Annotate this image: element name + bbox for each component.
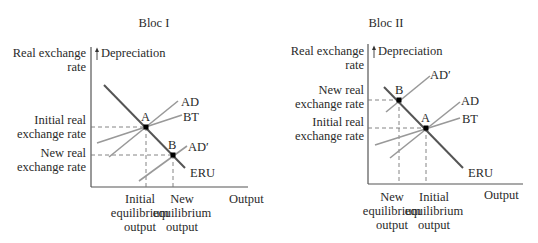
bloc-2-point-a	[424, 126, 429, 131]
bloc-1-panel: Bloc I Depreciation Real exchange rate I…	[13, 16, 264, 234]
bloc-2-ad-prime-label: AD′	[430, 68, 451, 82]
bloc-1-depreciation-label: Depreciation	[101, 46, 166, 60]
bloc-2-left-output-line1: New	[380, 190, 404, 204]
up-arrow-icon	[95, 48, 99, 61]
bloc-2-title: Bloc II	[368, 16, 403, 30]
bloc-1-right-output-line1: New	[170, 192, 194, 206]
bloc-1-ad-label: AD	[181, 95, 199, 109]
bloc-2-upper-rate-line1: New real	[319, 83, 365, 97]
bloc-2-lower-rate-line1: Initial real	[312, 115, 364, 129]
bloc-2-eru-label: ERU	[468, 166, 493, 180]
bloc-1-eru-label: ERU	[190, 166, 215, 180]
bloc-2-panel: Bloc II Depreciation Real exchange rate …	[291, 16, 523, 232]
bloc-1-title: Bloc I	[139, 16, 170, 30]
bloc-1-ad-prime-label: AD′	[188, 140, 209, 154]
bloc-2-left-output-line3: output	[376, 218, 408, 232]
bloc-2-lower-rate-line2: exchange rate	[295, 129, 365, 143]
bloc-1-right-output-line3: output	[166, 220, 198, 234]
bloc-1-x-label: Output	[229, 192, 264, 206]
bloc-2-bt-label: BT	[462, 112, 478, 126]
bloc-2-x-label: Output	[484, 188, 519, 202]
diagram-canvas: Bloc I Depreciation Real exchange rate I…	[0, 0, 538, 243]
bloc-1-left-output-line1: Initial	[125, 192, 155, 206]
bloc-2-depreciation-label: Depreciation	[378, 44, 443, 58]
bloc-2-ad-prime-curve	[386, 76, 430, 112]
bloc-1-point-a	[144, 125, 149, 130]
bloc-1-y-label-line2: rate	[67, 60, 86, 74]
bloc-1-point-b-label: B	[168, 138, 176, 152]
bloc-1-lower-rate-line1: New real	[41, 146, 87, 160]
bloc-2-right-output-line1: Initial	[419, 190, 449, 204]
bloc-2-y-label-line2: rate	[345, 58, 364, 72]
bloc-1-point-a-label: A	[141, 110, 150, 124]
bloc-2-ad-label: AD	[461, 94, 479, 108]
bloc-2-right-output-line2: equilibrium	[405, 204, 464, 218]
bloc-2-right-output-line3: output	[418, 218, 450, 232]
up-arrow-icon	[372, 46, 376, 59]
bloc-2-point-b-label: B	[395, 83, 403, 97]
bloc-2-point-b	[397, 98, 402, 103]
bloc-1-y-label-line1: Real exchange	[13, 46, 87, 60]
bloc-1-lower-rate-line2: exchange rate	[17, 160, 87, 174]
bloc-1-upper-rate-line1: Initial real	[34, 113, 86, 127]
bloc-1-right-output-line2: equilibrium	[153, 206, 212, 220]
bloc-1-bt-label: BT	[183, 110, 199, 124]
bloc-2-upper-rate-line2: exchange rate	[295, 97, 365, 111]
bloc-1-upper-rate-line2: exchange rate	[17, 127, 87, 141]
bloc-2-y-label-line1: Real exchange	[291, 44, 365, 58]
bloc-1-left-output-line3: output	[124, 220, 156, 234]
bloc-1-point-b	[171, 153, 176, 158]
bloc-2-point-a-label: A	[421, 111, 430, 125]
